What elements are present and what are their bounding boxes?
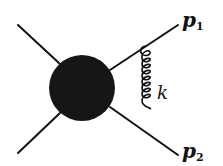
label-p1: p1 <box>182 10 204 32</box>
label-p2-base: p <box>182 139 196 163</box>
incoming-line-top <box>18 25 60 64</box>
label-p1-sub: 1 <box>196 20 204 33</box>
label-p1-base: p <box>182 8 196 32</box>
incoming-line-bottom <box>18 113 60 153</box>
outgoing-line-p1 <box>110 25 178 70</box>
label-k: k <box>157 84 168 102</box>
label-p2: p2 <box>182 141 204 163</box>
interaction-blob <box>49 55 115 121</box>
gluon-line-k <box>141 46 151 109</box>
label-p2-sub: 2 <box>196 151 204 164</box>
outgoing-line-p2 <box>110 107 178 155</box>
